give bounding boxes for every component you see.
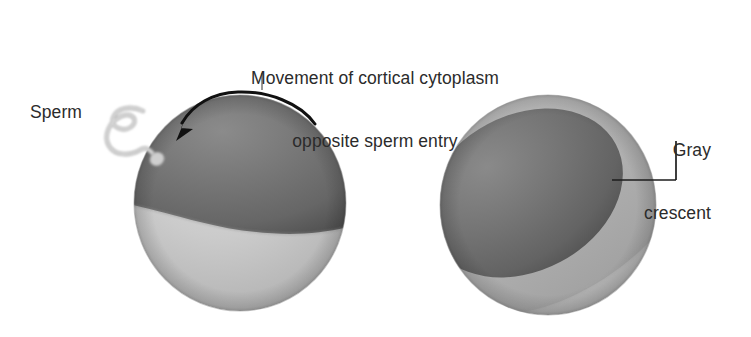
movement-caption-line1: Movement of cortical cytoplasm (251, 68, 499, 89)
gray-crescent-label-line2: crescent (644, 203, 711, 224)
sperm-label: Sperm (30, 102, 82, 123)
movement-caption-line2: opposite sperm entry (251, 131, 499, 152)
movement-caption: Movement of cortical cytoplasm opposite … (251, 26, 499, 194)
figure-root: Movement of cortical cytoplasm opposite … (0, 0, 751, 337)
gray-crescent-label-line1: Gray (644, 140, 711, 161)
gray-crescent-label: Gray crescent (644, 98, 711, 266)
sperm-flagellum-highlight (107, 108, 154, 155)
